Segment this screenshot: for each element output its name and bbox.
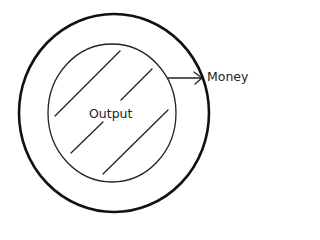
hatch-line <box>71 122 103 153</box>
output-label: Output <box>89 108 132 121</box>
hatch-line <box>121 69 152 100</box>
money-label: Money <box>207 71 248 84</box>
money-arrow <box>168 72 202 84</box>
